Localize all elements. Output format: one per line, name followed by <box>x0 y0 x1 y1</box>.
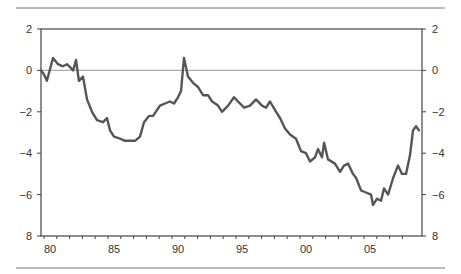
x-tick-label: 85 <box>108 243 120 255</box>
y-axis-right: 20−2−4−68 <box>422 23 445 242</box>
y-tick-label: 8 <box>432 230 438 242</box>
y-tick-label: 0 <box>26 64 32 76</box>
y-tick-label: −6 <box>432 189 445 201</box>
x-tick-label: 00 <box>300 243 312 255</box>
y-tick-label: −6 <box>19 189 32 201</box>
data-series <box>41 58 419 205</box>
x-axis: 808590950005 <box>44 236 403 255</box>
y-tick-label: 0 <box>432 64 438 76</box>
series-line <box>41 58 419 205</box>
y-tick-label: −4 <box>19 147 32 159</box>
y-tick-label: 2 <box>432 23 438 35</box>
line-chart: 20−2−4−68 20−2−4−68 808590950005 <box>0 0 461 274</box>
x-tick-label: 95 <box>236 243 248 255</box>
y-tick-label: −2 <box>432 106 445 118</box>
x-tick-label: 05 <box>364 243 376 255</box>
x-tick-label: 90 <box>172 243 184 255</box>
y-axis-left: 20−2−4−68 <box>19 23 41 242</box>
x-tick-label: 80 <box>44 243 56 255</box>
y-tick-label: −4 <box>432 147 445 159</box>
y-tick-label: 2 <box>26 23 32 35</box>
y-tick-label: 8 <box>26 230 32 242</box>
plot-frame <box>41 29 422 236</box>
y-tick-label: −2 <box>19 106 32 118</box>
